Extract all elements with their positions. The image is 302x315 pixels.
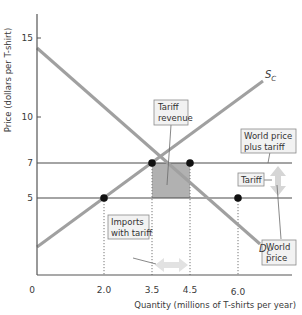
world-price-plus-tariff-label: World price plus tariff xyxy=(241,129,296,153)
tariff-arrow-icon xyxy=(270,166,286,196)
y-axis-title: Price (dollars per T-shirt) xyxy=(3,28,13,133)
imports-with-tariff-label: Imports with tariff xyxy=(108,215,153,239)
x-tick-4-5: 4.5 xyxy=(183,285,197,295)
svg-text:World price: World price xyxy=(244,131,292,141)
svg-text:Tariff: Tariff xyxy=(240,175,263,185)
svg-text:Imports: Imports xyxy=(111,217,144,227)
supply-label: SC xyxy=(265,69,276,83)
tariff-revenue-label: Tariff revenue xyxy=(154,100,193,125)
svg-text:revenue: revenue xyxy=(158,113,193,123)
svg-text:with tariff: with tariff xyxy=(111,228,153,238)
x-tick-6: 6.0 xyxy=(231,287,246,297)
y-tick-10: 10 xyxy=(22,112,34,122)
tariff-revenue-area xyxy=(152,163,190,198)
y-tick-5: 5 xyxy=(27,193,33,203)
imports-arrow-icon xyxy=(155,258,188,272)
tariff-chart: Tariff revenue World price plus tariff T… xyxy=(0,0,302,315)
y-tick-15: 15 xyxy=(22,33,33,43)
y-tick-7: 7 xyxy=(27,158,33,168)
svg-text:Tariff: Tariff xyxy=(157,102,180,112)
tariff-label: Tariff xyxy=(238,173,264,186)
x-tick-3-5: 3.5 xyxy=(145,285,159,295)
x-tick-0: 0 xyxy=(29,285,35,295)
svg-text:plus tariff: plus tariff xyxy=(244,142,286,152)
x-axis-title: Quantity (millions of T-shirts per year) xyxy=(134,300,296,310)
x-tick-2: 2.0 xyxy=(97,285,112,295)
